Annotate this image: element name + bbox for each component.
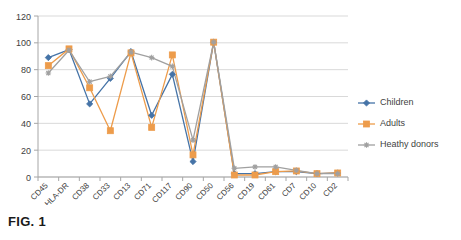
x-tick-label-cd13: CD13: [112, 181, 133, 202]
data-point-adults: [252, 172, 258, 178]
y-tick-label: 0: [26, 173, 31, 183]
y-tick-label: 20: [21, 146, 31, 156]
data-point-adults: [231, 172, 237, 178]
data-point-children: [190, 158, 196, 164]
legend-item-adults[interactable]: Adults: [358, 118, 406, 128]
figure-container: 020406080100120 CD45HLA-DRCD38CD33CD13CD…: [0, 0, 461, 240]
data-point-heathy-donors: [190, 137, 196, 143]
data-point-heathy-donors: [128, 49, 134, 55]
data-point-heathy-donors: [273, 164, 279, 170]
data-point-heathy-donors: [170, 64, 176, 70]
chart-svg: 020406080100120 CD45HLA-DRCD38CD33CD13CD…: [0, 0, 461, 205]
data-point-heathy-donors: [232, 165, 238, 171]
x-tick-label-cd117: CD117: [150, 181, 174, 205]
data-point-adults: [364, 121, 370, 127]
legend-item-children[interactable]: Children: [358, 97, 414, 107]
y-tick-label: 100: [16, 38, 31, 48]
data-point-heathy-donors: [252, 164, 258, 170]
y-tick-label: 120: [16, 12, 31, 22]
line-chart: 020406080100120 CD45HLA-DRCD38CD33CD13CD…: [0, 0, 461, 205]
x-tick-label-cd2: CD2: [321, 181, 339, 199]
data-point-children: [363, 100, 369, 106]
data-point-adults: [87, 85, 93, 91]
data-point-adults: [107, 128, 113, 134]
x-tick-label-cd38: CD38: [70, 181, 91, 202]
y-tick-label: 40: [21, 119, 31, 129]
x-tick-label-hla-dr: HLA-DR: [43, 181, 71, 205]
x-tick-label-cd50: CD50: [194, 181, 215, 202]
legend-label-heathy-donors: Heathy donors: [380, 139, 439, 149]
x-axis-tick-labels: CD45HLA-DRCD38CD33CD13CD71CD117CD90CD50C…: [29, 181, 340, 205]
data-point-heathy-donors: [211, 39, 217, 45]
data-point-heathy-donors: [294, 167, 300, 173]
data-point-heathy-donors: [66, 47, 72, 53]
data-point-heathy-donors: [87, 79, 93, 85]
series-markers: [45, 39, 341, 178]
x-tick-label-cd7: CD7: [280, 181, 298, 199]
data-point-children: [45, 54, 51, 60]
x-tick-label-cd61: CD61: [256, 181, 277, 202]
legend-label-adults: Adults: [380, 118, 406, 128]
x-tick-marks: [38, 177, 348, 181]
x-tick-label-cd10: CD10: [298, 181, 319, 202]
y-axis-tick-labels: 020406080100120: [16, 12, 31, 183]
data-point-adults: [169, 52, 175, 58]
data-point-adults: [45, 63, 51, 69]
legend-item-heathy-donors[interactable]: Heathy donors: [358, 139, 439, 149]
data-point-heathy-donors: [46, 70, 52, 76]
data-point-heathy-donors: [149, 55, 155, 61]
y-tick-marks: [34, 16, 38, 177]
data-point-adults: [190, 152, 196, 158]
legend-label-children: Children: [380, 97, 414, 107]
data-point-adults: [149, 124, 155, 130]
y-tick-label: 80: [21, 65, 31, 75]
data-point-heathy-donors: [314, 171, 320, 177]
x-tick-label-cd33: CD33: [91, 181, 112, 202]
data-point-heathy-donors: [108, 74, 114, 80]
x-tick-label-cd56: CD56: [215, 181, 236, 202]
figure-caption: FIG. 1: [8, 214, 46, 229]
x-tick-label-cd19: CD19: [236, 181, 257, 202]
y-tick-label: 60: [21, 92, 31, 102]
data-point-heathy-donors: [335, 171, 341, 177]
x-tick-label-cd90: CD90: [174, 181, 195, 202]
data-point-heathy-donors: [364, 142, 370, 148]
chart-legend: ChildrenAdultsHeathy donors: [358, 97, 439, 149]
